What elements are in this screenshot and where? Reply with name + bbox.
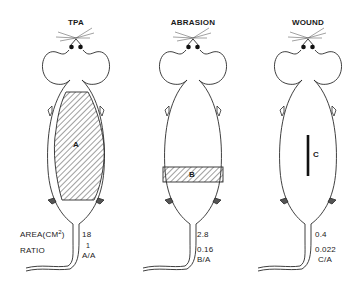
ratio-row-label: RATIO [20,246,45,255]
region-a-label: A [73,140,79,149]
region-a-hatch [54,92,104,200]
mouse-abrasion [143,28,227,271]
area-label-sup: 2 [58,229,62,235]
area-value-abrasion: 2.8 [197,230,209,239]
area-label-text: AREA(CM [20,230,58,239]
ratio-value-wound: 0.022 [315,245,336,254]
region-c-wound-bar [307,135,310,176]
region-c-label: C [313,150,319,159]
ratio-value-abrasion: 0.16 [197,245,213,254]
ratio-label-abrasion: B/A [197,255,211,264]
area-value-wound: 0.4 [315,230,327,239]
area-label-suffix: ) [62,230,65,239]
region-b-label: B [189,170,195,179]
panel-title-abrasion: ABRASION [158,18,228,27]
area-row-label: AREA(CM2) [20,230,65,239]
ratio-label-tpa: A/A [82,251,96,260]
panel-title-tpa: TPA [41,18,111,27]
mouse-wound [258,28,342,271]
ratio-label-wound: C/A [318,255,332,264]
mouse-diagram-figure [0,0,361,287]
area-value-tpa: 18 [82,230,91,239]
ratio-value-tpa: 1 [86,242,90,249]
panel-title-wound: WOUND [273,18,343,27]
